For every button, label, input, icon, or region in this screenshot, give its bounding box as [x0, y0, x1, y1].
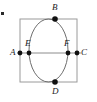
label-E: E — [25, 39, 31, 48]
label-A: A — [10, 48, 16, 57]
label-C: C — [81, 48, 87, 57]
label-F: F — [64, 39, 70, 48]
point-D — [52, 79, 58, 85]
stray-dot — [1, 12, 4, 15]
geometry-figure: A E F C B D — [0, 0, 97, 102]
label-D: D — [52, 87, 59, 96]
point-F — [66, 51, 71, 56]
point-E — [27, 51, 32, 56]
inscribed-ellipse — [29, 19, 68, 82]
label-B: B — [52, 3, 58, 12]
point-B — [52, 16, 58, 22]
point-C — [75, 51, 80, 56]
point-A — [18, 51, 23, 56]
